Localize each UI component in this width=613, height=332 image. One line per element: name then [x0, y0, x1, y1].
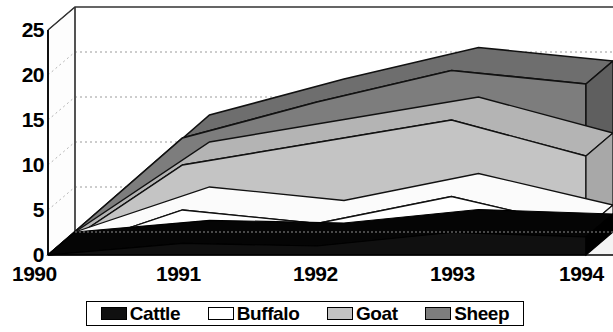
legend-item-cattle[interactable]: Cattle	[101, 304, 180, 323]
legend-swatch-sheep	[425, 307, 451, 320]
legend-label-goat: Goat	[356, 304, 398, 323]
legend-item-buffalo[interactable]: Buffalo	[208, 304, 300, 323]
legend-label-sheep: Sheep	[454, 304, 509, 323]
legend-item-goat[interactable]: Goat	[327, 304, 398, 323]
legend-swatch-buffalo	[208, 307, 234, 320]
left-side-wall	[48, 7, 75, 255]
legend-item-sheep[interactable]: Sheep	[425, 304, 509, 323]
plot-area	[0, 0, 613, 332]
legend-swatch-cattle	[101, 307, 127, 320]
legend-label-buffalo: Buffalo	[237, 304, 300, 323]
legend-swatch-goat	[327, 307, 353, 320]
legend-label-cattle: Cattle	[130, 304, 180, 323]
chart-legend: Cattle Buffalo Goat Sheep	[86, 301, 524, 326]
area-chart: 25 20 15 10 5 0 1990 1991 1992 1993 1994	[0, 0, 613, 332]
